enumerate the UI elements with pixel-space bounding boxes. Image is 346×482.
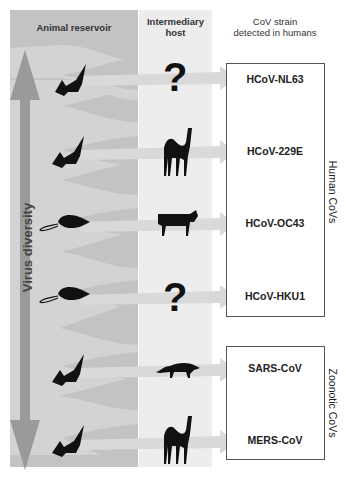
- header-intermediary-line2: host: [139, 27, 212, 38]
- virus-diversity-label: Virus diversity: [20, 193, 35, 303]
- strain-label: HCoV-HKU1: [225, 290, 325, 302]
- strain-label: HCoV-229E: [225, 145, 325, 157]
- human-covs-box: [226, 63, 325, 317]
- header-intermediary-host: Intermediary host: [139, 16, 212, 38]
- header-intermediary-line1: Intermediary: [139, 16, 212, 27]
- header-strain-line1: CoV strain: [215, 16, 335, 27]
- strain-label: SARS-CoV: [225, 362, 325, 374]
- strain-label: MERS-CoV: [225, 434, 325, 446]
- header-cov-strain: CoV strain detected in humans: [215, 16, 335, 38]
- zoonotic-covs-label: Zoonotic CoVs: [327, 358, 339, 448]
- strain-label: HCoV-NL63: [225, 73, 325, 85]
- strain-label: HCoV-OC43: [225, 217, 325, 229]
- human-covs-label: Human CoVs: [327, 152, 339, 232]
- header-strain-line2: detected in humans: [215, 27, 335, 38]
- header-animal-reservoir: Animal reservoir: [10, 22, 138, 33]
- question-mark-icon: ?: [163, 275, 187, 320]
- question-mark-icon: ?: [163, 55, 187, 100]
